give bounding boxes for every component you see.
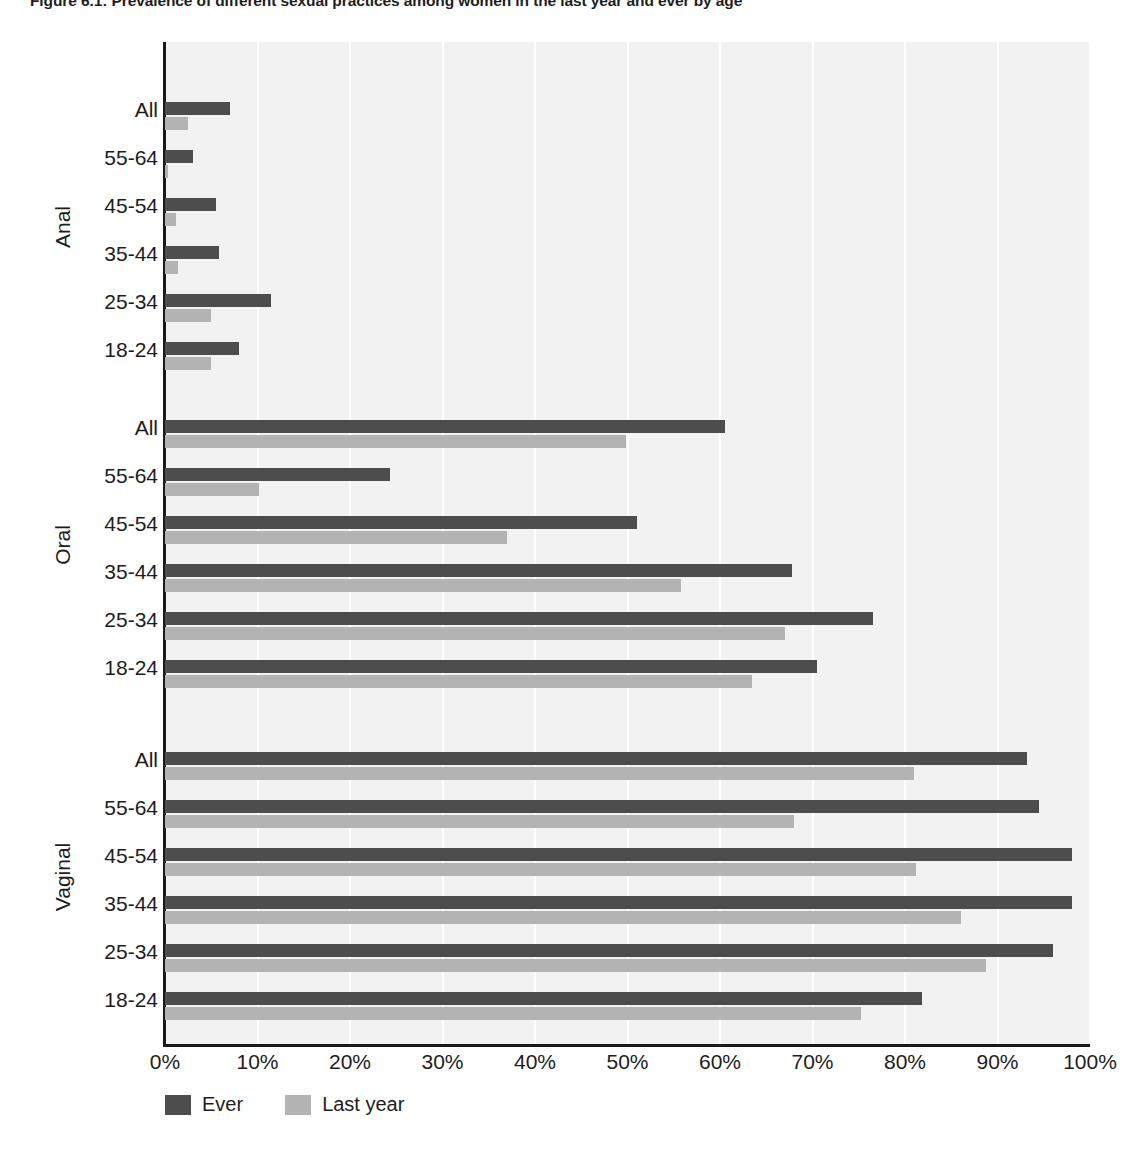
age-group-label: 25-34	[8, 608, 158, 632]
practice-group-label: Anal	[51, 182, 75, 272]
bar-ever	[165, 294, 271, 307]
legend-label: Ever	[202, 1093, 243, 1116]
bar-last-year	[165, 117, 188, 130]
age-group-label: 45-54	[8, 512, 158, 536]
x-tick-label: 60%	[699, 1050, 741, 1074]
age-group-label: 45-54	[8, 194, 158, 218]
age-group-label: 18-24	[8, 338, 158, 362]
bar-ever	[165, 564, 792, 577]
bar-ever	[165, 848, 1072, 861]
bar-ever	[165, 944, 1053, 957]
bar-last-year	[165, 531, 507, 544]
legend-label: Last year	[322, 1093, 404, 1116]
bar-last-year	[165, 579, 681, 592]
age-group-label: 35-44	[8, 242, 158, 266]
x-axis-line	[163, 1044, 1090, 1047]
bar-ever	[165, 800, 1039, 813]
bar-ever	[165, 102, 230, 115]
bar-last-year	[165, 357, 211, 370]
legend-swatch-icon	[285, 1095, 311, 1115]
legend-item: Ever	[165, 1093, 243, 1116]
legend-swatch-icon	[165, 1095, 191, 1115]
figure-title: Figure 6.1: Prevalence of different sexu…	[30, 0, 742, 10]
bar-last-year	[165, 435, 626, 448]
age-group-label: 35-44	[8, 892, 158, 916]
bar-last-year	[165, 309, 211, 322]
bar-last-year	[165, 863, 916, 876]
age-group-label: 25-34	[8, 290, 158, 314]
bar-last-year	[165, 261, 178, 274]
bar-ever	[165, 896, 1072, 909]
bar-last-year	[165, 1007, 861, 1020]
bar-ever	[165, 150, 193, 163]
age-group-label: 45-54	[8, 844, 158, 868]
bar-ever	[165, 198, 216, 211]
x-tick-label: 30%	[421, 1050, 463, 1074]
bar-last-year	[165, 767, 914, 780]
age-group-label: 55-64	[8, 464, 158, 488]
bar-last-year	[165, 627, 785, 640]
chart-legend: EverLast year	[165, 1093, 404, 1116]
bar-last-year	[165, 165, 168, 178]
bars-layer	[165, 42, 1090, 1044]
x-axis-tick-labels: 0%10%20%30%40%50%60%70%80%90%100%	[165, 1050, 1090, 1080]
x-tick-label: 90%	[976, 1050, 1018, 1074]
x-tick-label: 70%	[791, 1050, 833, 1074]
bar-last-year	[165, 675, 752, 688]
bar-ever	[165, 420, 725, 433]
bar-ever	[165, 468, 390, 481]
practice-group-label: Oral	[51, 500, 75, 590]
x-tick-label: 0%	[150, 1050, 180, 1074]
x-tick-label: 20%	[329, 1050, 371, 1074]
age-group-label: 25-34	[8, 940, 158, 964]
legend-item: Last year	[285, 1093, 404, 1116]
bar-ever	[165, 342, 239, 355]
x-tick-label: 100%	[1063, 1050, 1117, 1074]
bar-ever	[165, 516, 637, 529]
bar-last-year	[165, 213, 176, 226]
age-group-label: All	[8, 748, 158, 772]
bar-ever	[165, 612, 873, 625]
bar-ever	[165, 660, 817, 673]
bar-ever	[165, 246, 219, 259]
age-group-label: 35-44	[8, 560, 158, 584]
bar-ever	[165, 992, 922, 1005]
x-tick-label: 50%	[606, 1050, 648, 1074]
age-group-label: All	[8, 98, 158, 122]
bar-last-year	[165, 815, 794, 828]
figure-page: Figure 6.1: Prevalence of different sexu…	[0, 0, 1147, 1172]
bar-last-year	[165, 959, 986, 972]
x-tick-label: 10%	[236, 1050, 278, 1074]
bar-ever	[165, 752, 1027, 765]
bar-last-year	[165, 911, 961, 924]
category-labels: All55-6445-5435-4425-3418-24All55-6445-5…	[0, 42, 158, 1044]
practice-group-label: Vaginal	[51, 832, 75, 922]
age-group-label: 18-24	[8, 988, 158, 1012]
x-tick-label: 40%	[514, 1050, 556, 1074]
age-group-label: 55-64	[8, 146, 158, 170]
x-tick-label: 80%	[884, 1050, 926, 1074]
age-group-label: 55-64	[8, 796, 158, 820]
age-group-label: All	[8, 416, 158, 440]
age-group-label: 18-24	[8, 656, 158, 680]
bar-last-year	[165, 483, 259, 496]
